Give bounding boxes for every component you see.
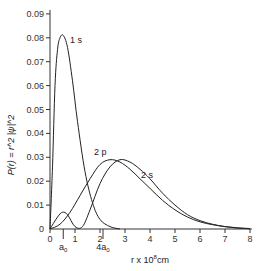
- series-label: 2 p: [94, 147, 107, 157]
- curves: [50, 35, 250, 229]
- y-tick-label: 0.02: [26, 176, 44, 186]
- x-tick-label: 7: [222, 234, 227, 244]
- chart-canvas: 01234567800.010.020.030.040.050.060.070.…: [0, 0, 260, 271]
- x-tick-label: 1: [72, 234, 77, 244]
- y-tick-label: 0.06: [26, 81, 44, 91]
- labels: 01234567800.010.020.030.040.050.060.070.…: [6, 9, 253, 265]
- series-label: 1 s: [70, 35, 83, 45]
- annotation-label: a0: [59, 242, 68, 253]
- series-label: 2 s: [141, 170, 154, 180]
- y-tick-label: 0.05: [26, 105, 44, 115]
- x-tick-label: 4: [147, 234, 152, 244]
- x-tick-label: 5: [172, 234, 177, 244]
- curve-1s: [50, 35, 120, 229]
- x-tick-label: 0: [47, 234, 52, 244]
- y-tick-label: 0: [39, 224, 44, 234]
- y-tick-label: 0.04: [26, 128, 44, 138]
- x-axis-label: r x 108cm: [131, 254, 169, 265]
- y-tick-label: 0.01: [26, 200, 44, 210]
- y-tick-label: 0.08: [26, 33, 44, 43]
- x-tick-label: 8: [247, 234, 252, 244]
- y-axis-label: P(r) = r^2 |ψ|^2: [6, 115, 16, 175]
- x-tick-label: 3: [122, 234, 127, 244]
- x-tick-label: 6: [197, 234, 202, 244]
- y-tick-label: 0.07: [26, 57, 44, 67]
- y-tick-label: 0.03: [26, 152, 44, 162]
- y-tick-label: 0.09: [26, 9, 44, 19]
- annotation-label: 4a0: [96, 242, 110, 253]
